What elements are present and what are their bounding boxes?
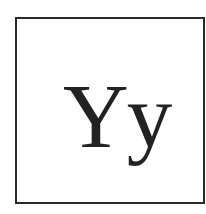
letter-specimen: Yy: [63, 71, 170, 162]
specimen-frame: Yy: [15, 17, 205, 204]
